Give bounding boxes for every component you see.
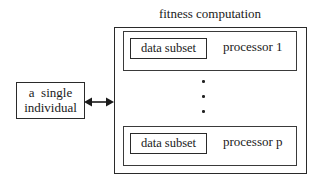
data-subset-box-1: data subset	[130, 38, 207, 59]
bidirectional-arrow-icon	[83, 95, 115, 109]
data-subset-box-p: data subset	[130, 133, 207, 154]
individual-line-1: a single	[17, 85, 84, 100]
processor-p-box: data subset processor p	[123, 126, 297, 166]
ellipsis-dot-2	[202, 95, 205, 98]
processor-p-label: processor p	[223, 134, 283, 150]
ellipsis-dot-3	[202, 110, 205, 113]
single-individual-box: a single individual	[16, 82, 85, 119]
processor-1-label: processor 1	[223, 39, 283, 55]
ellipsis-dot-1	[202, 80, 205, 83]
processor-1-box: data subset processor 1	[123, 31, 297, 71]
fitness-computation-title: fitness computation	[114, 6, 306, 22]
individual-line-2: individual	[17, 100, 84, 115]
